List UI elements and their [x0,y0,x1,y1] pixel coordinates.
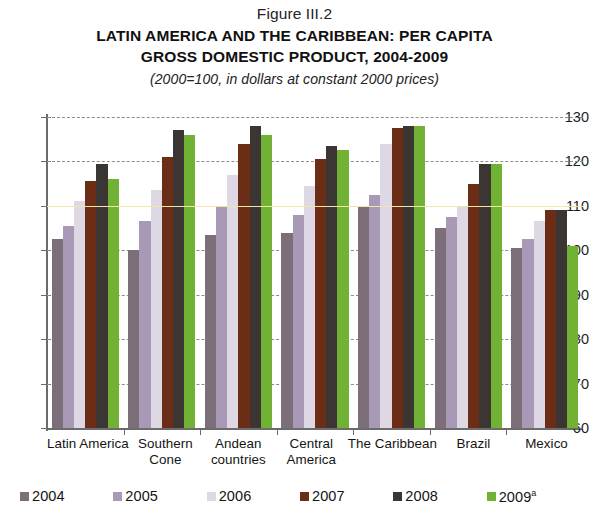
legend-item-2008[interactable]: 2008 [393,488,486,504]
category-label-southern-cone: SouthernCone [129,436,202,468]
figure-header: Figure III.2 LATIN AMERICA AND THE CARIB… [0,4,589,89]
bar-2008-central-america [326,146,337,428]
bar-2008-southern-cone [173,130,184,428]
category-label-latin-america: Latin America [47,436,129,468]
legend-footnote-marker: a [531,488,536,498]
bar-2005-the-caribbean [369,195,380,428]
category-label-line: Central [275,436,348,452]
bar-2009-latin-america [108,179,119,428]
bar-2005-latin-america [63,226,74,428]
bar-2008-latin-america [96,164,107,428]
chart-legend: 200420052006200720082009a [20,488,580,505]
x-tick-separator-1 [124,428,125,435]
bar-2004-brazil [435,228,446,428]
bar-2007-latin-america [85,181,96,428]
bar-2007-brazil [468,184,479,428]
bar-2004-central-america [281,233,292,428]
bar-2008-the-caribbean [403,126,414,428]
bar-2009-the-caribbean [414,126,425,428]
bar-group-southern-cone [124,117,201,428]
bar-group-the-caribbean [353,117,430,428]
category-label-line: Latin America [47,436,129,452]
bar-2006-latin-america [74,201,85,428]
figure-container: Figure III.2 LATIN AMERICA AND THE CARIB… [0,0,589,514]
category-label-andean-countries: Andeancountries [202,436,275,468]
bar-2007-the-caribbean [392,128,403,428]
category-label-the-caribbean: The Caribbean [348,436,437,468]
legend-item-2005[interactable]: 2005 [113,488,206,504]
bar-2009-southern-cone [184,135,195,428]
category-label-line: Mexico [510,436,583,452]
legend-label-2008: 2008 [405,488,438,504]
legend-label-2009: 2009a [499,488,537,505]
bar-2008-mexico [556,210,567,428]
legend-label-2006: 2006 [219,488,252,504]
bar-2004-southern-cone [128,250,139,428]
legend-item-2007[interactable]: 2007 [300,488,393,504]
legend-swatch-2008 [393,492,402,501]
x-tick-separator-3 [277,428,278,435]
category-label-mexico: Mexico [510,436,583,468]
legend-item-2004[interactable]: 2004 [20,488,113,504]
bar-2005-andean-countries [216,206,227,428]
figure-subtitle: (2000=100, in dollars at constant 2000 p… [0,69,589,89]
category-label-line: countries [202,452,275,468]
title-line-2: GROSS DOMESTIC PRODUCT, 2004-2009 [0,46,589,67]
category-label-line: Brazil [437,436,510,452]
bar-2004-latin-america [52,239,63,428]
bar-2009-andean-countries [261,135,272,428]
bar-2009-brazil [491,164,502,428]
bar-2008-brazil [479,164,490,428]
bar-2005-central-america [293,215,304,428]
bar-group-mexico [506,117,583,428]
bar-2009-mexico [567,246,578,428]
category-axis-labels: Latin AmericaSouthernConeAndeancountries… [47,436,583,468]
legend-label-2004: 2004 [32,488,65,504]
legend-label-2007: 2007 [312,488,345,504]
page-title: LATIN AMERICA AND THE CARIBBEAN: PER CAP… [0,25,589,67]
bar-2005-brazil [446,217,457,428]
legend-swatch-2006 [207,492,216,501]
legend-item-2009[interactable]: 2009a [487,488,580,505]
bar-2007-mexico [545,210,556,428]
legend-label-2005: 2005 [125,488,158,504]
bar-2006-the-caribbean [380,144,391,428]
bar-2007-andean-countries [238,144,249,428]
bar-2008-andean-countries [250,126,261,428]
bar-2006-andean-countries [227,175,238,428]
bar-2007-central-america [315,159,326,428]
category-label-line: Southern [129,436,202,452]
bar-groups [47,117,583,428]
plot-area [47,117,583,428]
bar-2006-mexico [534,221,545,428]
bar-2006-southern-cone [151,190,162,428]
legend-swatch-2007 [300,492,309,501]
x-tick-separator-5 [430,428,431,435]
category-label-line: Andean [202,436,275,452]
bar-2005-mexico [522,239,533,428]
legend-swatch-2009 [487,492,496,501]
bar-2006-brazil [457,206,468,428]
bar-2009-central-america [337,150,348,428]
x-tick-separator-2 [200,428,201,435]
legend-swatch-2004 [20,492,29,501]
bar-group-brazil [430,117,507,428]
category-label-brazil: Brazil [437,436,510,468]
x-tick-separator-4 [353,428,354,435]
figure-number: Figure III.2 [0,4,589,24]
bar-2007-southern-cone [162,157,173,428]
bar-2004-mexico [511,248,522,428]
title-line-1: LATIN AMERICA AND THE CARIBBEAN: PER CAP… [0,25,589,46]
category-label-line: Cone [129,452,202,468]
reference-line-110 [47,206,583,207]
legend-item-2006[interactable]: 2006 [207,488,300,504]
bar-2005-southern-cone [139,221,150,428]
bar-2004-andean-countries [205,235,216,428]
legend-swatch-2005 [113,492,122,501]
bar-group-andean-countries [200,117,277,428]
category-label-line: America [275,452,348,468]
bar-2006-central-america [304,186,315,428]
x-tick-separator-6 [506,428,507,435]
gridline-60 [47,428,583,429]
bar-group-latin-america [47,117,124,428]
